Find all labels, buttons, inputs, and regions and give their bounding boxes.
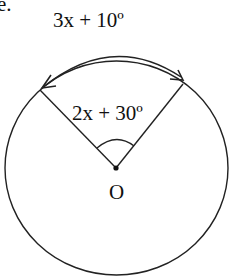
radius-right — [116, 84, 183, 168]
circle-diagram — [0, 0, 240, 277]
angle-arc-mark — [97, 139, 134, 148]
center-point — [113, 165, 118, 170]
center-label: O — [109, 182, 124, 203]
arrowhead-left-icon — [42, 75, 56, 88]
central-angle-label: 2x + 30º — [72, 103, 143, 124]
arc-measure-label: 3x + 10º — [53, 10, 124, 31]
text-fragment: e. — [0, 0, 12, 15]
